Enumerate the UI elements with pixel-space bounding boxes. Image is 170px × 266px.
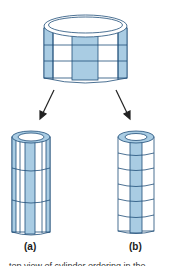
arrows (40, 90, 130, 119)
panel-label-a: (a) (24, 241, 36, 252)
cylinder-a (12, 131, 50, 235)
cylinder-b (118, 131, 154, 234)
top-cylinder (44, 15, 127, 83)
caption-partial: …top view of cylinder ordering in the… (0, 259, 170, 266)
panel-label-b: (b) (129, 241, 142, 252)
cylinder-diagram (0, 0, 170, 266)
